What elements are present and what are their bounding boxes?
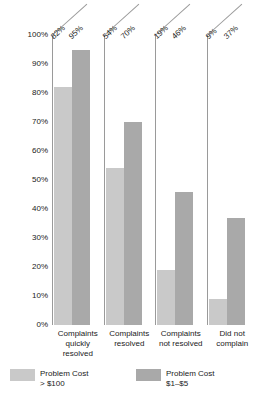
group-separator-line [155,35,156,325]
y-axis-tick: 20% [14,263,48,271]
bar-problem-cost-1-to-5[interactable] [72,50,90,326]
x-axis-label-line: Did not [203,329,262,339]
y-axis-tick: 60% [14,147,48,155]
y-axis-tick: 10% [14,292,48,300]
bar-problem-cost-1-to-5[interactable] [227,218,245,325]
x-axis-label-line: complain [203,339,262,349]
y-axis-tick: 50% [14,176,48,184]
x-axis-category-labels: ComplaintsquicklyresolvedComplaintsresol… [52,329,258,369]
legend-label: Problem Cost > $100 [40,369,88,389]
bar-group [104,35,156,325]
x-axis-label-line: resolved [48,349,108,359]
y-axis-tick: 70% [14,118,48,126]
group-separator-line [104,35,105,325]
legend-color-swatch [10,369,35,381]
bar-group [207,35,259,325]
bar-problem-cost-over-100[interactable] [54,87,72,325]
y-axis-tick: 40% [14,205,48,213]
y-axis-tick: 30% [14,234,48,242]
bar-group [52,35,104,325]
y-axis-tick: 90% [14,60,48,68]
bar-problem-cost-1-to-5[interactable] [124,122,142,325]
group-separator-line [207,35,208,325]
plot-area [52,35,258,325]
legend-item[interactable]: Problem Cost > $100 [10,369,88,389]
legend-label: Problem Cost $1–$5 [166,369,214,389]
bar-problem-cost-over-100[interactable] [209,299,227,325]
y-axis-tick: 0% [14,321,48,329]
x-axis-category-label: Did notcomplain [203,329,262,349]
y-axis-tick: 80% [14,89,48,97]
y-axis-tick: 100% [14,31,48,39]
group-separator-line [52,35,53,325]
bar-group [155,35,207,325]
bar-chart: Percentage of People Intending to Repurc… [0,0,261,400]
bar-problem-cost-over-100[interactable] [106,168,124,325]
legend-item[interactable]: Problem Cost $1–$5 [136,369,214,389]
bar-problem-cost-over-100[interactable] [157,270,175,325]
y-axis-tick-labels: 100%90%80%70%60%50%40%30%20%10%0% [14,0,48,400]
chart-legend: Problem Cost > $100Problem Cost $1–$5 [10,369,261,395]
legend-color-swatch [136,369,161,381]
bar-problem-cost-1-to-5[interactable] [175,192,193,325]
